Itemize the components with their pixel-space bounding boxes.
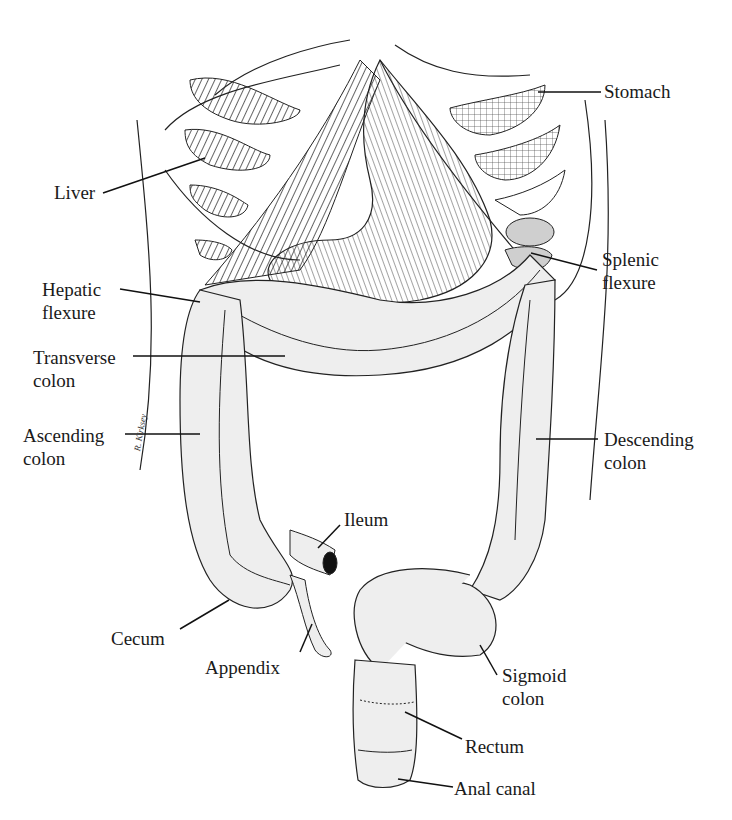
label-rectum: Rectum bbox=[465, 735, 524, 758]
rectum bbox=[353, 660, 417, 788]
label-sigmoid-colon: Sigmoid colon bbox=[502, 664, 566, 710]
label-splenic-flexure: Splenic flexure bbox=[602, 248, 659, 294]
label-stomach: Stomach bbox=[604, 80, 671, 103]
label-transverse-colon: Transverse colon bbox=[33, 346, 116, 392]
label-hepatic-flexure: Hepatic flexure bbox=[42, 278, 101, 324]
label-liver: Liver bbox=[54, 181, 95, 204]
label-ascending-colon: Ascending colon bbox=[23, 424, 104, 470]
colon-anatomy-illustration bbox=[0, 0, 732, 820]
label-appendix: Appendix bbox=[205, 656, 280, 679]
label-ileum: Ileum bbox=[344, 508, 388, 531]
spleen bbox=[506, 218, 554, 246]
ileum-opening bbox=[323, 552, 337, 574]
label-cecum: Cecum bbox=[111, 627, 165, 650]
label-anal-canal: Anal canal bbox=[454, 777, 536, 800]
label-descending-colon: Descending colon bbox=[604, 428, 694, 474]
appendix bbox=[290, 575, 331, 657]
